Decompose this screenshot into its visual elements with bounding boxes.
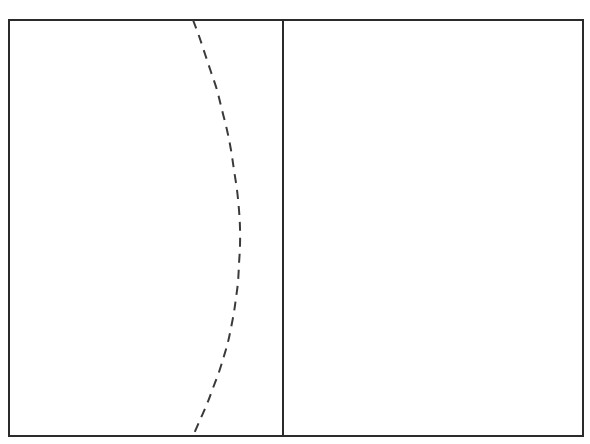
figure-container	[0, 0, 590, 444]
plot-canvas	[0, 0, 590, 444]
plot-border	[9, 20, 583, 436]
